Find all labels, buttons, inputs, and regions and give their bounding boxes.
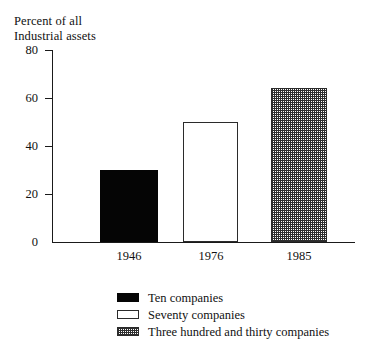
y-tick-40 [45,146,53,147]
legend-label-seventy-companies: Seventy companies [148,308,245,322]
x-tick-label-1985: 1985 [259,249,339,263]
y-tick-label-60: 60 [0,92,38,105]
legend-swatch-open-icon [117,310,139,319]
y-tick-label-20: 20 [0,188,38,201]
x-tick-label-1946: 1946 [89,249,169,263]
y-tick-label-0: 0 [0,236,38,249]
bar-1946 [100,170,158,242]
bar-chart-figure: Percent of all Industrial assets 80 60 4… [0,0,379,350]
bar-1985 [271,88,327,242]
x-tick-label-1976: 1976 [171,249,251,263]
y-tick-60 [45,98,53,99]
legend-item-seventy-companies: Seventy companies [117,307,367,322]
chart-legend: Ten companies Seventy companies Three hu… [117,290,367,341]
y-tick-label-80: 80 [0,44,38,57]
legend-item-three-hundred-thirty-companies: Three hundred and thirty companies [117,324,367,339]
legend-label-ten-companies: Ten companies [148,291,223,305]
legend-swatch-hatch-icon [117,327,139,336]
legend-label-three-hundred-thirty-companies: Three hundred and thirty companies [148,325,329,339]
y-tick-20 [45,194,53,195]
y-tick-label-40: 40 [0,140,38,153]
x-axis-line [52,242,355,243]
legend-item-ten-companies: Ten companies [117,290,367,305]
y-tick-80 [45,50,53,51]
legend-swatch-solid-icon [117,293,139,302]
bar-1976 [183,122,238,242]
